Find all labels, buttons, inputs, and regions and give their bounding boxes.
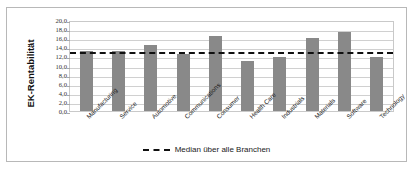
legend-label: Median über alle Branchen <box>175 145 271 154</box>
bar-technology[interactable] <box>370 57 383 111</box>
y-tick-label: 18,0 <box>43 27 67 34</box>
bar-materials[interactable] <box>306 38 319 111</box>
bar-software[interactable] <box>338 32 351 111</box>
y-axis-title: EK-Rentabilität <box>25 29 36 119</box>
y-tick-label: 10,0 <box>43 63 67 70</box>
y-tick-label: 14,0 <box>43 45 67 52</box>
bar-automotive[interactable] <box>144 45 157 111</box>
bar-health-care[interactable] <box>241 61 254 111</box>
bar-industrials[interactable] <box>273 57 286 111</box>
bar-slot <box>70 22 102 111</box>
bar-consumer[interactable] <box>209 36 222 111</box>
bar-manufacturing[interactable] <box>80 51 93 111</box>
y-tick-label: 2,0 <box>43 100 67 107</box>
y-tick-label: 8,0 <box>43 72 67 79</box>
y-tick-label: 20,0 <box>43 18 67 25</box>
bar-slot <box>361 22 393 111</box>
y-tick-label: 6,0 <box>43 81 67 88</box>
y-tick-label: 12,0 <box>43 54 67 61</box>
legend-dashed-line-icon <box>143 149 170 151</box>
median-reference-line <box>70 52 393 54</box>
bar-slot <box>135 22 167 111</box>
y-tick-label: 16,0 <box>43 36 67 43</box>
legend: Median über alle Branchen <box>7 145 406 154</box>
bar-communications[interactable] <box>177 54 190 111</box>
chart-frame: EK-Rentabilität 20,018,016,014,012,010,0… <box>6 7 407 162</box>
bar-service[interactable] <box>112 51 125 111</box>
y-tick-label: 4,0 <box>43 91 67 98</box>
y-axis-tick-labels: 20,018,016,014,012,010,08,06,04,02,00,0 <box>43 21 67 112</box>
y-tick-label: 0,0 <box>43 109 67 116</box>
